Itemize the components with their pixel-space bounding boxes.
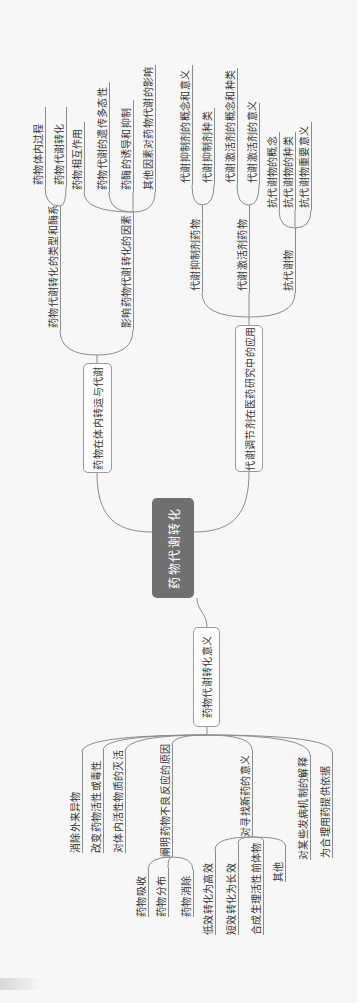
leaf-short-to-long-acting: 短效转化为长效: [226, 843, 239, 935]
connector-significance-5: [207, 735, 252, 750]
leaf-activator-significance: 代谢激活剂的意义: [247, 103, 260, 185]
connector-activator-2: [249, 185, 259, 205]
leaf-drug-interaction: 药物相互作用: [72, 122, 85, 192]
connector-inhibitor-2: [202, 185, 214, 205]
subtopic-inactivation: 对体内活性物质的灭活: [113, 752, 126, 853]
leaf-distribution: 药物分布: [156, 868, 169, 917]
central-topic: 药物代谢转化: [152, 498, 194, 598]
subtopic-adverse-reactions: 阐明药物不良反应的原因: [160, 745, 173, 857]
subtopic-pathogenesis: 对某些发病机制的解释: [298, 755, 311, 860]
connector-factors-1: [84, 192, 133, 212]
leaf-in-vivo-process: 药物体内过程: [33, 107, 46, 187]
leaf-activator-concept: 代谢激活剂的概念和种类: [225, 68, 238, 185]
connector-antimetabolite-1: [279, 210, 295, 228]
subtopic-change-activity: 改变药物活性或毒性: [91, 750, 104, 853]
subtopic-new-drug-discovery: 对寻找新药的意义: [240, 750, 253, 837]
leaf-enzyme-induction-inhibition: 药酶的诱导和抑制: [121, 100, 134, 192]
subtopic-types-enzymes: 药物代谢转化的类型和酶系: [48, 206, 61, 330]
leaf-other-factors: 其他因素对药物代谢的影响: [143, 65, 156, 192]
subtopic-eliminate-foreign: 消除外来异物: [70, 752, 83, 853]
connector-root-significance: [197, 598, 207, 627]
leaf-inhibitor-concept: 代谢抑制剂的概念和意义: [180, 65, 193, 185]
leaf-synthesize-precursor: 合成生理活性前体物: [251, 840, 264, 935]
topic-significance: 药物代谢转化意义: [193, 627, 220, 727]
connector-root-regulators: [194, 472, 249, 532]
connector-transport-types: [60, 330, 97, 355]
mind-map: 药物代谢转化 药物在体内转运与代谢 代谢调节剂在医药研究中的应用 药物代谢转化意…: [0, 0, 357, 1003]
connector-regulators-inhibitor: [202, 293, 249, 317]
leaf-low-to-high-efficacy: 低效转化为高效: [203, 850, 216, 935]
connector-root-transport: [97, 473, 152, 532]
connector-transport-factors: [97, 330, 133, 355]
leaf-genetic-polymorphism: 药物代谢的遗传多态性: [97, 82, 110, 192]
leaf-inhibitor-types: 代谢抑制剂种类: [202, 108, 215, 185]
topic-regulators: 代谢调节剂在医药研究中的应用: [235, 325, 263, 472]
subtopic-influencing-factors: 影响药物代谢转化的因素: [121, 212, 134, 330]
leaf-antimetabolite-significance: 抗代谢物重要意义: [299, 122, 312, 210]
topic-transport: 药物在体内转运与代谢: [83, 363, 112, 473]
connector-inhibitor-1: [192, 185, 202, 205]
leaf-metabolic-conversion: 药物代谢转化: [54, 107, 67, 187]
leaf-antimetabolite-types: 抗代谢物的种类: [283, 132, 296, 210]
connector-adverse-2: [168, 857, 172, 868]
leaf-elimination: 药物消除: [181, 870, 194, 917]
leaf-other: 其他: [273, 845, 286, 882]
subtopic-activator-drugs: 代谢激活剂药物: [237, 205, 250, 293]
connector-significance-4: [172, 735, 207, 745]
connector-adverse-3: [172, 857, 193, 870]
connector-significance-6: [207, 735, 310, 755]
connector-antimetabolite-3: [295, 210, 311, 228]
subtopic-rational-drug-use: 为合理用药提供依据: [320, 752, 333, 858]
leaf-antimetabolite-concept: 抗代谢物的概念: [267, 132, 280, 210]
leaf-absorption: 药物吸收: [136, 870, 149, 917]
connector-types-2: [60, 187, 66, 206]
connector-factors-4: [133, 192, 155, 212]
subtopic-antimetabolites: 抗代谢物: [283, 228, 296, 293]
connector-activator-1: [237, 185, 249, 205]
subtopic-inhibitor-drugs: 代谢抑制剂药物: [190, 205, 203, 293]
connector-factors-2: [109, 192, 133, 212]
connector-regulators-antimetabolite: [249, 293, 295, 317]
